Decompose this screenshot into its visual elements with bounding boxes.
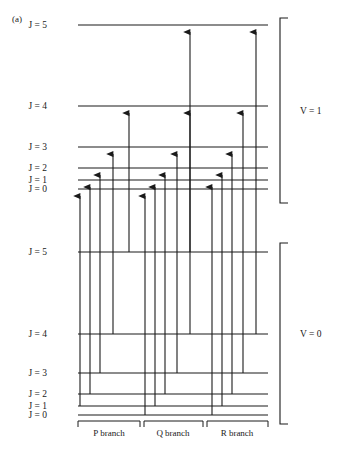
panel-label: (a) bbox=[12, 14, 22, 24]
level-label-upper-J0: J = 0 bbox=[28, 184, 47, 194]
level-upper-J3: J = 3 bbox=[28, 142, 268, 152]
level-label-upper-J4: J = 4 bbox=[28, 101, 47, 111]
level-upper-J4: J = 4 bbox=[28, 101, 268, 111]
vibrational-state-brackets: V = 1 V = 0 bbox=[280, 18, 322, 424]
level-label-lower-J4: J = 4 bbox=[28, 329, 47, 339]
q-branch-arrows bbox=[145, 32, 190, 415]
level-label-lower-J5: J = 5 bbox=[28, 247, 47, 257]
branch-label-r: R branch bbox=[221, 428, 254, 438]
level-label-upper-J2: J = 2 bbox=[28, 163, 47, 173]
state-label-v0: V = 0 bbox=[300, 329, 322, 339]
level-label-lower-J0: J = 0 bbox=[28, 410, 47, 420]
state-label-v1: V = 1 bbox=[300, 106, 322, 116]
level-label-lower-J3: J = 3 bbox=[28, 368, 47, 378]
energy-level-figure: (a) J = 5 J = 4 J = 3 J = 2 J = 1 bbox=[0, 0, 343, 453]
level-label-upper-J5: J = 5 bbox=[28, 20, 47, 30]
level-lower-J0: J = 0 bbox=[28, 410, 268, 420]
energy-level-diagram-svg: (a) J = 5 J = 4 J = 3 J = 2 J = 1 bbox=[0, 0, 343, 453]
r-branch-arrows bbox=[212, 32, 256, 415]
branch-label-p: P branch bbox=[93, 428, 125, 438]
level-label-upper-J3: J = 3 bbox=[28, 142, 47, 152]
level-label-lower-J2: J = 2 bbox=[28, 389, 47, 399]
level-lower-J1: J = 1 bbox=[28, 401, 268, 411]
branch-brackets: P branch Q branch R branch bbox=[78, 421, 268, 438]
p-branch-arrows bbox=[80, 113, 129, 406]
level-upper-J5: J = 5 bbox=[28, 20, 268, 30]
branch-label-q: Q branch bbox=[156, 428, 190, 438]
